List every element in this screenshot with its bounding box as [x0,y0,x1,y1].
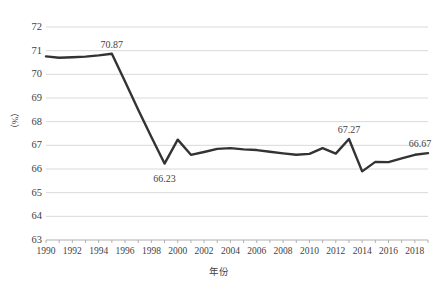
x-tick-label: 1996 [116,246,135,257]
x-tick-label: 2002 [195,246,214,257]
x-axis-title: 年份 [0,264,438,278]
x-tick-label: 1992 [63,246,82,257]
x-tick-label: 2010 [300,246,319,257]
x-tick-label: 2004 [221,246,240,257]
x-tick-label: 2008 [274,246,293,257]
x-tick-label: 2016 [379,246,398,257]
data-point-label: 66.23 [153,173,176,184]
data-point-label: 67.27 [338,124,361,135]
x-tick-label: 1990 [37,246,56,257]
plot-area [0,0,438,286]
x-tick-label: 2000 [168,246,187,257]
x-tick-label: 1994 [89,246,108,257]
data-series-line [46,54,428,172]
x-tick-label: 2018 [405,246,424,257]
line-chart: （%） 72717069686766656463 199019921994199… [0,0,438,286]
x-tick-label: 2014 [353,246,372,257]
data-point-label: 66.67 [409,138,432,149]
x-tick-label: 2006 [247,246,266,257]
x-tick-label: 2012 [326,246,345,257]
data-point-label: 70.87 [101,39,124,50]
x-tick-label: 1998 [142,246,161,257]
x-axis-tick-labels: 1990199219941996199820002002200420062008… [0,246,438,262]
